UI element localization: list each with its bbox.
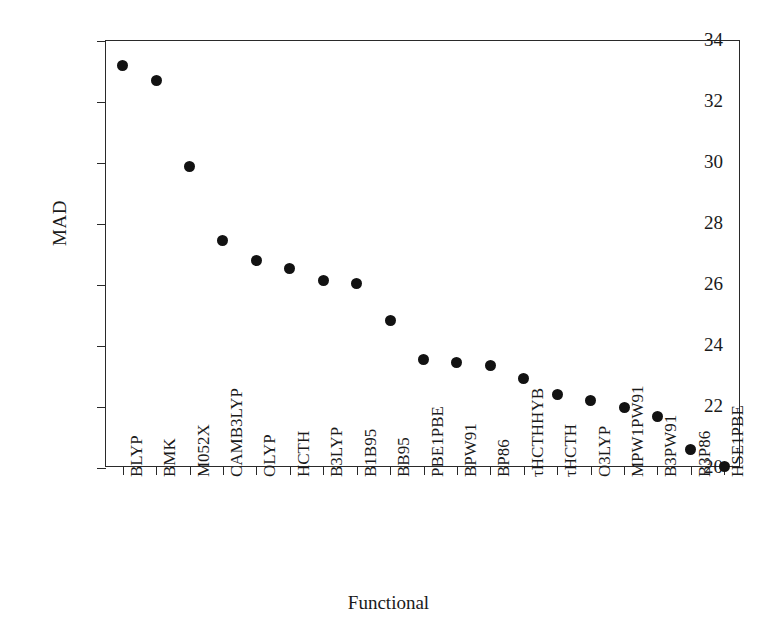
x-axis-tick — [323, 466, 324, 475]
y-axis-tick-label: 32 — [704, 91, 723, 110]
scatter-chart-figure: MAD 3432302826242220 BLYPBMKM052XCAMB3LY… — [0, 0, 777, 631]
x-axis-tick-label: B3P86 — [696, 431, 713, 477]
x-axis-tick — [424, 466, 425, 475]
x-axis-tick-label: B1B95 — [362, 429, 379, 477]
x-axis-tick — [524, 466, 525, 475]
data-point — [184, 161, 195, 172]
y-axis-tick — [97, 285, 106, 286]
y-axis-tick-label: 30 — [704, 152, 723, 171]
x-axis-tick-label: BB95 — [395, 437, 412, 477]
x-axis-tick — [123, 466, 124, 475]
data-point — [151, 75, 162, 86]
x-axis-tick-label: M052X — [195, 424, 212, 477]
data-point — [117, 60, 128, 71]
x-axis-tick-label: CAMB3LYP — [228, 388, 245, 477]
x-axis-tick-label: MPW1PW91 — [629, 385, 646, 477]
x-axis-tick-label: BMK — [161, 438, 178, 477]
x-axis-tick-label: τHCTHHYB — [529, 388, 546, 477]
data-point — [552, 389, 563, 400]
y-axis-tick — [97, 468, 106, 469]
x-axis-tick — [290, 466, 291, 475]
x-axis-tick — [457, 466, 458, 475]
y-axis-tick — [97, 102, 106, 103]
x-axis-tick-label: OLYP — [261, 434, 278, 477]
data-point — [251, 255, 262, 266]
x-axis-tick — [557, 466, 558, 475]
x-axis-tick — [223, 466, 224, 475]
y-axis-tick-label: 24 — [704, 335, 723, 354]
y-axis-tick-label: 28 — [704, 213, 723, 232]
data-point — [485, 360, 496, 371]
data-point — [351, 278, 362, 289]
y-axis-title: MAD — [49, 173, 71, 273]
y-axis-tick — [97, 407, 106, 408]
y-axis-tick-label: 34 — [704, 30, 723, 49]
data-point — [318, 275, 329, 286]
y-axis-tick — [97, 346, 106, 347]
y-axis-tick-label: 26 — [704, 274, 723, 293]
x-axis-tick — [357, 466, 358, 475]
x-axis-tick — [390, 466, 391, 475]
data-point — [451, 357, 462, 368]
data-point — [518, 373, 529, 384]
y-axis-tick — [97, 163, 106, 164]
x-axis-tick — [490, 466, 491, 475]
x-axis-tick-label: HSE1PBE — [729, 405, 746, 477]
x-axis-title: Functional — [0, 592, 777, 614]
x-axis-tick-label: HCTH — [295, 431, 312, 477]
x-axis-tick — [624, 466, 625, 475]
data-point — [585, 395, 596, 406]
x-axis-tick-label: B3LYP — [328, 427, 345, 477]
x-axis-tick-label: τHCTH — [562, 424, 579, 477]
data-point — [217, 235, 228, 246]
y-axis-tick — [97, 224, 106, 225]
x-axis-tick-label: BPW91 — [462, 423, 479, 477]
data-point — [284, 263, 295, 274]
data-point — [385, 315, 396, 326]
x-axis-tick — [691, 466, 692, 475]
x-axis-tick — [591, 466, 592, 475]
x-axis-tick — [156, 466, 157, 475]
x-axis-tick — [256, 466, 257, 475]
data-point — [418, 354, 429, 365]
x-axis-tick-label: PBE1PBE — [429, 406, 446, 477]
y-axis-tick-label: 22 — [704, 396, 723, 415]
x-axis-tick-label: O3LYP — [596, 426, 613, 477]
x-axis-tick-label: B3PW91 — [662, 415, 679, 477]
x-axis-tick-label: BP86 — [495, 439, 512, 477]
y-axis-tick — [97, 41, 106, 42]
x-axis-tick — [190, 466, 191, 475]
x-axis-tick — [657, 466, 658, 475]
x-axis-tick-label: BLYP — [128, 435, 145, 477]
